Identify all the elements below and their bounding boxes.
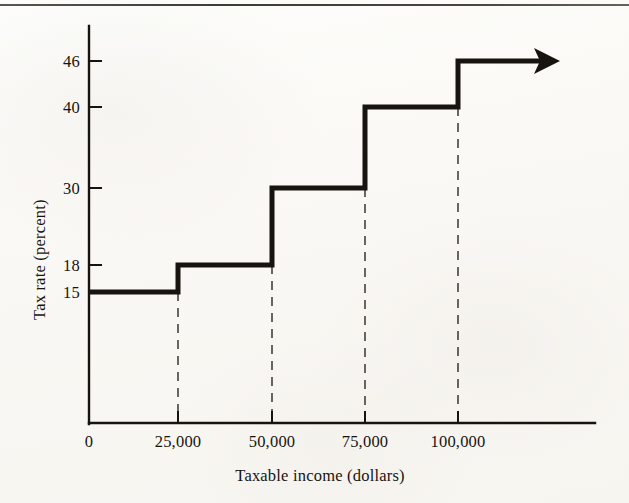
xtick-label-25000: 25,000 [133, 432, 223, 452]
tax-rate-step-curve [89, 48, 560, 292]
axis-lines [89, 26, 595, 424]
ytick-label-30: 30 [42, 179, 80, 199]
y-axis-title: Tax rate (percent) [30, 199, 50, 320]
step-chart-plot [0, 0, 629, 503]
ytick-label-46: 46 [42, 52, 80, 72]
x-axis-title: Taxable income (dollars) [175, 466, 465, 486]
xtick-label-75000: 75,000 [320, 432, 410, 452]
y-tick-marks [89, 61, 102, 265]
xtick-label-50000: 50,000 [227, 432, 317, 452]
step-polyline [89, 61, 540, 292]
xtick-label-0: 0 [64, 432, 114, 452]
x-tick-marks [178, 411, 458, 423]
xtick-label-100000: 100,000 [408, 432, 508, 452]
figure-canvas: 46 40 30 18 15 0 25,000 50,000 75,000 10… [0, 0, 629, 503]
ytick-label-40: 40 [42, 98, 80, 118]
